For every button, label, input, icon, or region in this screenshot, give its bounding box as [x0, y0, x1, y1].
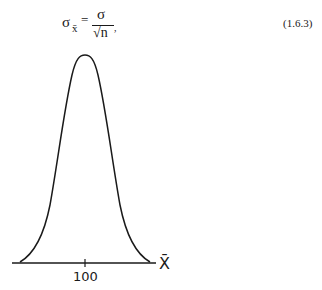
- axis-label-xbar: X̄: [159, 254, 170, 273]
- tick-label-100: 100: [73, 269, 98, 284]
- normal-curve-figure: [0, 0, 322, 290]
- bell-curve: [20, 55, 150, 262]
